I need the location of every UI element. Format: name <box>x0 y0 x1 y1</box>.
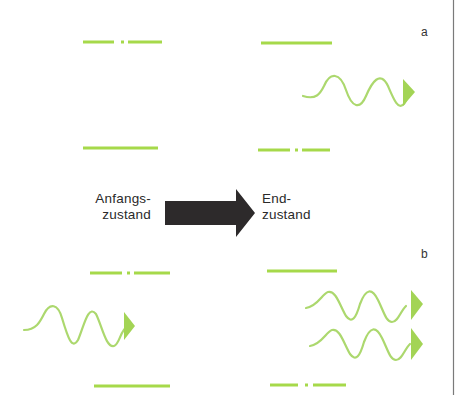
panel-b-incoming-photon-wave-icon <box>24 306 135 346</box>
transition-arrow-icon <box>165 189 255 237</box>
initial-state-line1: Anfangs- <box>61 191 151 207</box>
panel-b-label: b <box>421 247 428 261</box>
initial-state-line2: zustand <box>61 207 151 223</box>
initial-state-label: Anfangs- zustand <box>61 191 151 223</box>
panel-a-photon-wave-icon <box>303 76 415 106</box>
final-state-line2: zustand <box>262 207 352 223</box>
panel-b-emitted-photon-wave-icon-2 <box>310 328 423 360</box>
panel-a: a <box>83 25 428 150</box>
diagram-canvas: .lvl { stroke: #a6d94a; stroke-width: 3;… <box>0 0 459 405</box>
panel-b: b <box>24 247 428 386</box>
panel-a-label: a <box>421 25 428 39</box>
panel-b-emitted-photon-wave-icon-1 <box>306 290 423 322</box>
final-state-label: End- zustand <box>262 191 352 223</box>
final-state-line1: End- <box>262 191 352 207</box>
